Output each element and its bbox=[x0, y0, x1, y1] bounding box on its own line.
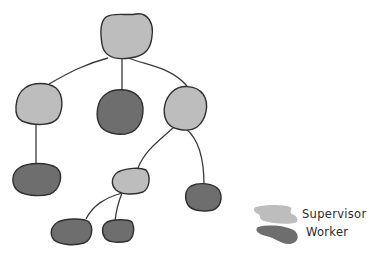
legend-label-supervisor: Supervisor bbox=[302, 207, 366, 221]
edge-l2-middle-l3-right bbox=[115, 193, 122, 221]
node-l3-left-worker bbox=[51, 219, 92, 245]
edges bbox=[36, 58, 204, 221]
node-l3-right-worker bbox=[103, 220, 134, 242]
node-l1-left-supervisor bbox=[16, 84, 62, 125]
node-l2-right-worker bbox=[186, 184, 221, 211]
legend: Supervisor Worker bbox=[254, 205, 367, 244]
edge-l2-middle-l3-left bbox=[86, 193, 122, 219]
edge-root-l1-left bbox=[49, 58, 108, 84]
legend-swatch-worker bbox=[256, 226, 297, 245]
node-l2-middle-supervisor bbox=[112, 168, 149, 194]
edge-root-l1-right bbox=[128, 58, 187, 86]
node-root-supervisor bbox=[101, 14, 153, 59]
hierarchy-diagram: Supervisor Worker bbox=[0, 0, 381, 260]
node-l1-right-supervisor bbox=[164, 87, 206, 131]
node-l2-left-worker bbox=[13, 164, 61, 196]
legend-swatch-supervisor bbox=[254, 205, 298, 224]
legend-label-worker: Worker bbox=[306, 225, 348, 239]
edge-l1-right-l2-middle bbox=[138, 127, 174, 168]
node-l1-middle-worker bbox=[97, 90, 143, 135]
edge-l1-right-l2-right bbox=[186, 129, 204, 185]
